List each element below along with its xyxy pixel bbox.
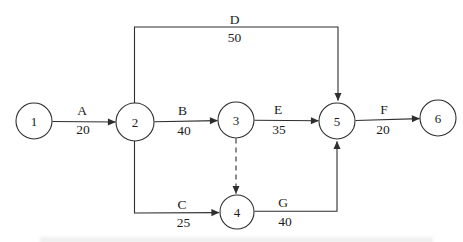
event-node-label-1: 1 (31, 114, 38, 129)
activity-label-E: E (274, 102, 282, 117)
activity-arrow-E (255, 120, 319, 121)
activity-arrow-G (255, 142, 338, 212)
activity-network-diagram: 123456 A20B40E35F20D50C25G40 (0, 0, 463, 242)
event-node-label-6: 6 (435, 111, 442, 126)
event-node-label-5: 5 (334, 114, 341, 129)
activity-label-D: D (230, 12, 240, 27)
activity-label-C: C (177, 197, 186, 212)
activity-duration-B: 40 (177, 123, 191, 138)
activity-label-A: A (77, 103, 87, 118)
activity-duration-A: 20 (76, 122, 90, 137)
activity-duration-F: 20 (376, 122, 390, 137)
event-node-label-2: 2 (132, 115, 139, 130)
activity-duration-E: 35 (272, 122, 286, 137)
event-node-label-3: 3 (233, 113, 240, 128)
event-node-label-4: 4 (234, 205, 241, 220)
activity-arrow-F (356, 119, 420, 121)
activity-label-F: F (380, 102, 388, 117)
activity-label-B: B (178, 103, 187, 118)
activity-duration-G: 40 (278, 214, 292, 229)
activity-label-G: G (278, 195, 288, 210)
network-diagram-canvas: 123456 A20B40E35F20D50C25G40 (0, 0, 463, 242)
activity-duration-C: 25 (177, 215, 191, 230)
activity-duration-D: 50 (228, 30, 242, 45)
